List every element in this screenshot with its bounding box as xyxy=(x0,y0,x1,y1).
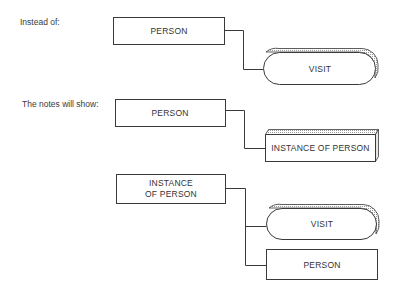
instance-of-person-parent-line1: INSTANCE xyxy=(149,178,193,188)
connector-1 xyxy=(225,31,264,70)
visit-entity-1: VISIT xyxy=(264,48,379,84)
person-entity-1: PERSON xyxy=(114,18,225,45)
instance-of-person-entity: INSTANCE OF PERSON xyxy=(266,130,379,162)
entity-relationship-diagram: PERSON VISIT PERSON INSTANCE OF PERSON I… xyxy=(0,0,398,294)
instance-of-person-parent-line2: OF PERSON xyxy=(145,189,197,199)
connector-2 xyxy=(226,111,266,149)
person-entity-2-label: PERSON xyxy=(151,108,188,118)
person-entity-2: PERSON xyxy=(116,100,226,127)
person-entity-3: PERSON xyxy=(267,250,378,280)
diagram-2: PERSON INSTANCE OF PERSON xyxy=(116,100,379,162)
person-entity-1-label: PERSON xyxy=(150,26,187,36)
person-entity-3-label: PERSON xyxy=(303,260,340,270)
instance-of-person-parent: INSTANCE OF PERSON xyxy=(117,175,226,204)
visit-entity-2: VISIT xyxy=(267,204,380,239)
visit-entity-2-label: VISIT xyxy=(311,219,333,229)
diagram-3: INSTANCE OF PERSON VISIT PERSON xyxy=(117,175,380,280)
visit-entity-1-label: VISIT xyxy=(309,64,331,74)
diagram-1: PERSON VISIT xyxy=(114,18,379,85)
instance-of-person-label: INSTANCE OF PERSON xyxy=(271,143,369,153)
